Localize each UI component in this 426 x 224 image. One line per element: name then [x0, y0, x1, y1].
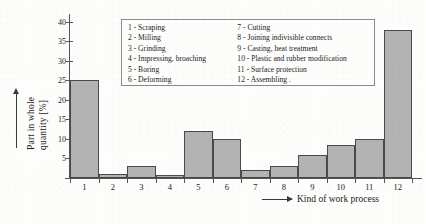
x-axis-tick-mark — [99, 178, 100, 183]
legend-item: 7 - Cutting — [237, 23, 374, 33]
y-axis-title-line2: quantity [%] — [38, 100, 48, 150]
x-axis-tick-label: 7 — [241, 182, 269, 192]
x-axis-tick-label: 3 — [127, 182, 155, 192]
bar-4 — [156, 175, 185, 178]
legend-item: 10 - Plastic and rubber modification — [237, 54, 374, 64]
bar-2 — [99, 174, 128, 178]
x-axis-arrow-icon — [262, 199, 292, 200]
y-axis-tick-label: 40 — [49, 17, 66, 26]
x-axis-title: Kind of work process — [297, 194, 379, 204]
y-axis-tick-label: 20 — [49, 95, 66, 104]
y-axis-tick-label: 25 — [49, 76, 66, 85]
x-axis-tick-mark — [241, 178, 242, 183]
x-axis-tick-label: 9 — [298, 182, 326, 192]
y-axis-arrow-icon — [16, 92, 17, 148]
x-axis-tick-label: 10 — [327, 182, 355, 192]
bar-6 — [213, 139, 242, 178]
bar-11 — [355, 139, 384, 178]
bar-5 — [184, 131, 213, 178]
legend-box: 1 - Scraping2 - Milling3 - Grinding4 - I… — [121, 19, 375, 86]
legend-item: 11 - Surface protection — [237, 65, 374, 75]
legend-item: 2 - Milling — [128, 33, 237, 43]
x-axis-tick-mark — [70, 178, 71, 183]
x-axis-tick-mark — [412, 178, 413, 183]
x-axis-tick-label: 8 — [270, 182, 298, 192]
x-axis-tick-mark — [184, 178, 185, 183]
x-axis-tick-label: 2 — [99, 182, 127, 192]
y-axis-tick-label: 30 — [49, 56, 66, 65]
legend-column-2: 7 - Cutting8 - Joining indivisible conne… — [237, 23, 374, 85]
bar-8 — [270, 166, 299, 178]
y-axis-tick-label: 15 — [49, 115, 66, 124]
y-axis-title-block: Part in whole quantity [%] — [0, 0, 46, 200]
legend-item: 3 - Grinding — [128, 44, 237, 54]
bar-7 — [241, 170, 270, 178]
x-axis-tick-mark — [298, 178, 299, 183]
legend-column-1: 1 - Scraping2 - Milling3 - Grinding4 - I… — [128, 23, 237, 85]
x-axis-tick-mark — [384, 178, 385, 183]
x-axis-tick-label: 4 — [156, 182, 184, 192]
legend-item: 1 - Scraping — [128, 23, 237, 33]
chart-figure: Part in whole quantity [%] 5101520253035… — [0, 0, 426, 224]
y-axis-tick-label: 5 — [49, 154, 66, 163]
bar-10 — [327, 145, 356, 178]
bar-12 — [384, 30, 413, 178]
bar-1 — [70, 80, 99, 178]
legend-item: 5 - Boring — [128, 65, 237, 75]
y-axis-title-line1: Part in whole — [26, 97, 36, 150]
x-axis-tick-mark — [213, 178, 214, 183]
x-axis-title-block: Kind of work process — [262, 194, 379, 204]
x-axis-tick-mark — [327, 178, 328, 183]
x-axis-tick-label: 6 — [213, 182, 241, 192]
y-axis-tick-label: 10 — [49, 134, 66, 143]
legend-item: 8 - Joining indivisible connects — [237, 33, 374, 43]
x-axis-tick-mark — [127, 178, 128, 183]
x-axis-tick-label: 1 — [70, 182, 98, 192]
legend-item: 4 - Impressing, broaching — [128, 54, 237, 64]
legend-item: 9 - Casting, heat treatment — [237, 44, 374, 54]
bar-9 — [298, 155, 327, 178]
legend-item: 6 - Deforming — [128, 75, 237, 85]
bar-3 — [127, 166, 156, 178]
legend-item: 12 - Assembling . — [237, 75, 374, 85]
x-axis-tick-label: 11 — [355, 182, 383, 192]
x-axis-tick-mark — [270, 178, 271, 183]
x-axis-tick-mark — [355, 178, 356, 183]
x-axis-tick-mark — [156, 178, 157, 183]
x-axis-tick-label: 12 — [384, 182, 412, 192]
x-axis-line — [65, 178, 422, 179]
y-axis-tick-label: 35 — [49, 37, 66, 46]
x-axis-tick-label: 5 — [184, 182, 212, 192]
